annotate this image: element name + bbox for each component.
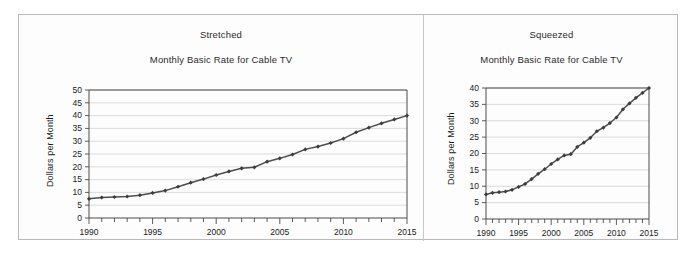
y-tick-label: 15 [470, 165, 480, 175]
panel-squeezed: Squeezed Monthly Basic Rate for Cable TV… [423, 15, 679, 241]
data-point-marker [290, 152, 294, 156]
data-point-marker [189, 181, 193, 185]
data-point-marker [367, 126, 371, 130]
data-point-marker [379, 121, 383, 125]
series-line [486, 88, 649, 194]
x-tick-label: 2015 [640, 228, 659, 238]
y-tick-label: 35 [470, 99, 480, 109]
data-point-marker [392, 117, 396, 121]
data-point-marker [227, 169, 231, 173]
data-point-marker [87, 197, 91, 201]
data-point-marker [484, 192, 488, 196]
chart-title-stretched: Monthly Basic Rate for Cable TV [19, 54, 423, 65]
y-tick-label: 10 [73, 187, 83, 197]
y-tick-label: 15 [73, 174, 83, 184]
x-tick-label: 2010 [334, 227, 353, 237]
x-tick-label: 2005 [270, 227, 289, 237]
y-tick-label: 5 [77, 200, 82, 210]
data-point-marker [490, 191, 494, 195]
y-tick-label: 25 [73, 149, 83, 159]
plot-area-stretched: 0510152025303540455019901995200020052010… [53, 67, 413, 227]
x-tick-label: 2015 [398, 227, 417, 237]
data-point-marker [176, 185, 180, 189]
x-tick-label: 1990 [80, 227, 99, 237]
x-tick-label: 2000 [207, 227, 226, 237]
figure-frame: Stretched Monthly Basic Rate for Cable T… [18, 14, 678, 240]
y-tick-label: 0 [77, 213, 82, 223]
y-tick-label: 35 [73, 123, 83, 133]
figure-root: Stretched Monthly Basic Rate for Cable T… [0, 0, 696, 259]
data-point-marker [405, 114, 409, 118]
data-point-marker [112, 195, 116, 199]
data-point-marker [503, 189, 507, 193]
data-point-marker [151, 191, 155, 195]
y-tick-label: 20 [470, 148, 480, 158]
y-tick-label: 20 [73, 162, 83, 172]
data-point-marker [497, 190, 501, 194]
chart-title-squeezed: Monthly Basic Rate for Cable TV [424, 54, 679, 65]
x-tick-label: 1995 [509, 228, 528, 238]
y-tick-label: 40 [470, 83, 480, 93]
y-tick-label: 45 [73, 98, 83, 108]
y-tick-label: 40 [73, 110, 83, 120]
plot-area-squeezed: 0510152025303540199019952000200520102015 [454, 67, 674, 227]
data-point-marker [125, 194, 129, 198]
x-tick-label: 2000 [542, 228, 561, 238]
y-tick-label: 0 [474, 214, 479, 224]
panel-stretched: Stretched Monthly Basic Rate for Cable T… [19, 15, 423, 241]
x-tick-label: 2010 [607, 228, 626, 238]
y-tick-label: 25 [470, 132, 480, 142]
panel-label-squeezed: Squeezed [424, 29, 679, 40]
x-tick-label: 2005 [574, 228, 593, 238]
panel-label-stretched: Stretched [19, 29, 423, 40]
data-point-marker [303, 147, 307, 151]
y-tick-label: 10 [470, 181, 480, 191]
y-tick-label: 5 [474, 197, 479, 207]
y-tick-label: 30 [73, 136, 83, 146]
data-point-marker [100, 195, 104, 199]
x-tick-label: 1995 [143, 227, 162, 237]
y-tick-label: 50 [73, 85, 83, 95]
data-point-marker [201, 177, 205, 181]
y-tick-label: 30 [470, 116, 480, 126]
data-point-marker [138, 193, 142, 197]
data-point-marker [278, 156, 282, 160]
data-point-marker [316, 144, 320, 148]
data-point-marker [214, 173, 218, 177]
x-tick-label: 1990 [477, 228, 496, 238]
